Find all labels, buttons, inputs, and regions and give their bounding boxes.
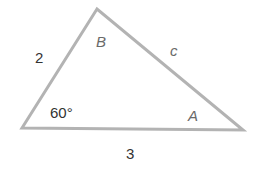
angle-label-60: 60° [50,104,73,121]
triangle-diagram: 2 B c 60° A 3 [0,0,258,178]
side-label-c: c [170,42,178,59]
vertex-label-b: B [96,33,106,50]
side-label-bottom: 3 [126,145,134,162]
vertex-label-a: A [187,107,198,124]
side-label-left: 2 [35,49,43,66]
